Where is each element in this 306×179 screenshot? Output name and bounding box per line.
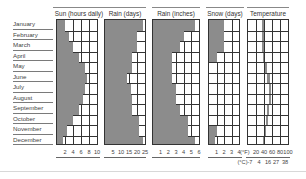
- rain-days-underline: [104, 157, 146, 158]
- tick-label: 15: [126, 149, 132, 155]
- grid-line: [232, 94, 233, 105]
- grid-line: [272, 125, 273, 136]
- grid-line: [137, 83, 138, 94]
- month-label: September: [13, 103, 53, 114]
- tick-label: 2: [63, 149, 66, 155]
- grid-line: [280, 52, 281, 63]
- bar: [57, 115, 73, 126]
- grid-line: [232, 62, 233, 73]
- temperature-band: [266, 115, 268, 126]
- grid-line: [85, 73, 97, 74]
- grid-line: [264, 94, 265, 105]
- grid-line: [256, 125, 257, 136]
- grid-line: [81, 115, 82, 126]
- tick-label: 5: [190, 149, 193, 155]
- grid-line: [127, 83, 145, 84]
- grid-line: [232, 115, 233, 126]
- grid-line: [232, 41, 233, 52]
- tick-label: 4: [257, 159, 260, 165]
- grid-line: [176, 73, 177, 84]
- grid-line: [264, 73, 265, 84]
- grid-line: [81, 41, 82, 52]
- grid-line: [256, 136, 257, 146]
- tick-label: 10: [94, 149, 100, 155]
- grid-line: [139, 136, 145, 137]
- month-label: May: [13, 61, 53, 72]
- grid-line: [69, 41, 97, 42]
- grid-line: [280, 73, 281, 84]
- bar: [153, 104, 180, 115]
- bar: [57, 125, 67, 136]
- grid-line: [137, 73, 138, 84]
- grid-line: [137, 41, 145, 42]
- bar: [105, 115, 139, 126]
- grid-line: [184, 73, 185, 84]
- tick-label: 27: [273, 159, 279, 165]
- bar: [57, 104, 79, 115]
- grid-line: [264, 83, 265, 94]
- grid-line: [191, 73, 192, 84]
- grid-line: [209, 94, 239, 95]
- grid-line: [73, 52, 97, 53]
- grid-line: [209, 104, 239, 105]
- bar: [153, 20, 195, 31]
- bar: [57, 52, 79, 63]
- grid-line: [89, 94, 90, 105]
- grid-line: [217, 115, 218, 126]
- grid-line: [280, 104, 281, 115]
- temperature-underline: [246, 157, 290, 158]
- tick-label: 6: [79, 149, 82, 155]
- grid-line: [176, 52, 177, 63]
- grid-line: [137, 62, 138, 73]
- grid-line: [232, 52, 233, 63]
- month-label: June: [13, 72, 53, 83]
- grid-line: [264, 62, 265, 73]
- bar: [153, 125, 188, 136]
- rain-inches-title: Rain (inches): [152, 7, 200, 17]
- bar: [57, 20, 65, 31]
- grid-line: [272, 104, 273, 115]
- grid-line: [217, 94, 218, 105]
- grid-line: [264, 115, 265, 126]
- month-label: October: [13, 114, 53, 125]
- temperature-band: [267, 104, 269, 115]
- grid-line: [217, 52, 240, 53]
- rain-days-title: Rain (days): [104, 7, 146, 17]
- grid-line: [280, 125, 281, 136]
- grid-line: [272, 115, 273, 126]
- bar: [105, 41, 137, 52]
- grid-line: [248, 31, 288, 32]
- grid-line: [191, 94, 192, 105]
- sun-underline: [56, 157, 100, 158]
- tick-label: 38: [282, 159, 288, 165]
- grid-line: [280, 20, 281, 31]
- bar: [153, 136, 195, 146]
- temperature-panel: [247, 19, 289, 145]
- grid-line: [89, 104, 90, 115]
- grid-line: [272, 31, 273, 42]
- grid-line: [215, 136, 239, 137]
- grid-line: [172, 73, 199, 74]
- tick-label: 100: [283, 149, 292, 155]
- grid-line: [272, 73, 273, 84]
- grid-line: [73, 136, 74, 146]
- grid-line: [232, 20, 233, 31]
- tick-label: 20: [253, 149, 259, 155]
- grid-line: [132, 62, 145, 63]
- grid-line: [232, 83, 233, 94]
- grid-line: [264, 41, 265, 52]
- snow-panel: [208, 19, 240, 145]
- grid-line: [224, 136, 225, 146]
- bar: [105, 20, 143, 31]
- grid-line: [209, 83, 239, 84]
- grid-line: [224, 31, 239, 32]
- grid-line: [137, 31, 145, 32]
- tick-label: 2: [167, 149, 170, 155]
- bar: [105, 83, 131, 94]
- tick-label: 6: [197, 149, 200, 155]
- bar: [209, 52, 217, 63]
- bar: [153, 31, 184, 42]
- grid-line: [280, 31, 281, 42]
- grid-line: [81, 104, 82, 115]
- month-label: December: [13, 135, 53, 146]
